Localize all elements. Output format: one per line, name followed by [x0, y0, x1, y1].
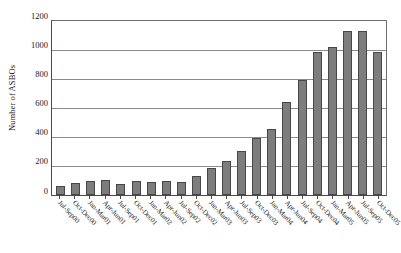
label-slot: Oct-Dec04	[310, 199, 325, 253]
y-tick-label: 200	[18, 156, 48, 166]
y-tick-label: 600	[18, 98, 48, 108]
bar-slot	[53, 21, 68, 195]
label-slot: Apr-Jun02	[158, 199, 173, 253]
bar-slot	[144, 21, 159, 195]
bar	[86, 181, 95, 194]
bar	[358, 31, 367, 194]
bar	[313, 52, 322, 194]
bar-slot	[325, 21, 340, 195]
bar	[192, 176, 201, 195]
bar	[71, 183, 80, 195]
bar-slot	[295, 21, 310, 195]
bar-slot	[234, 21, 249, 195]
label-slot: Oct-Dec00	[67, 199, 82, 253]
y-tick-label: 0	[18, 186, 48, 196]
bar	[162, 181, 171, 195]
bar-slot	[340, 21, 355, 195]
bar-slot	[68, 21, 83, 195]
bar	[177, 182, 186, 194]
bar-slot	[310, 21, 325, 195]
y-axis-tick-labels: 020040060080010001200	[18, 15, 48, 196]
bar	[56, 186, 65, 195]
bar	[116, 184, 125, 195]
y-tick-label: 400	[18, 127, 48, 137]
bar	[282, 102, 291, 195]
label-slot: Jan-Mar03	[204, 199, 219, 253]
y-axis-title-text: Number of ASBOs	[7, 65, 17, 131]
bar	[343, 31, 352, 195]
bar-slot	[113, 21, 128, 195]
bar-slot	[83, 21, 98, 195]
bar	[132, 181, 141, 195]
label-slot: Apr-Jun04	[280, 199, 295, 253]
bar-slot	[159, 21, 174, 195]
bar	[298, 80, 307, 195]
label-slot: Jan-Mar02	[143, 199, 158, 253]
bar-slot	[279, 21, 294, 195]
label-slot: Oct-Dec01	[128, 199, 143, 253]
bar	[328, 47, 337, 195]
y-tick-label: 1200	[18, 11, 48, 21]
bar	[252, 138, 261, 195]
y-tick-label: 800	[18, 69, 48, 79]
bar	[207, 168, 216, 194]
bar-series	[52, 21, 386, 195]
bar	[147, 182, 156, 194]
label-slot: Jul-Sep05	[356, 199, 371, 253]
bar	[373, 52, 382, 194]
plot-area	[51, 20, 387, 196]
bar-slot	[189, 21, 204, 195]
label-slot: Oct-Dec03	[249, 199, 264, 253]
label-slot: Jan-Mar01	[82, 199, 97, 253]
label-slot: Jul-Sep00	[52, 199, 67, 253]
label-slot: Jan-Mar04	[265, 199, 280, 253]
label-slot: Apr-Jun03	[219, 199, 234, 253]
bar-slot	[204, 21, 219, 195]
bar-slot	[128, 21, 143, 195]
bar-slot	[98, 21, 113, 195]
bar	[101, 180, 110, 195]
label-slot: Jul-Sep01	[113, 199, 128, 253]
label-slot: Apr-Jun05	[341, 199, 356, 253]
bar-slot	[219, 21, 234, 195]
bar-slot	[370, 21, 385, 195]
label-slot: Apr-Jun01	[98, 199, 113, 253]
label-slot: Oct-Dec02	[189, 199, 204, 253]
bar-slot	[249, 21, 264, 195]
bar	[222, 161, 231, 194]
bar-slot	[174, 21, 189, 195]
bar	[267, 129, 276, 194]
label-slot: Jan-Mar05	[325, 199, 340, 253]
bar-slot	[355, 21, 370, 195]
label-slot: Oct-Dec05	[371, 199, 386, 253]
label-slot: Jul-Sep04	[295, 199, 310, 253]
bar-slot	[264, 21, 279, 195]
bar	[237, 151, 246, 195]
x-tick-label: Oct-Dec05	[375, 199, 401, 227]
y-tick-label: 1000	[18, 40, 48, 50]
label-slot: Jul-Sep02	[174, 199, 189, 253]
label-slot: Jul-Sep03	[234, 199, 249, 253]
x-axis-tick-labels: Jul-Sep00Oct-Dec00Jan-Mar01Apr-Jun01Jul-…	[51, 199, 387, 253]
